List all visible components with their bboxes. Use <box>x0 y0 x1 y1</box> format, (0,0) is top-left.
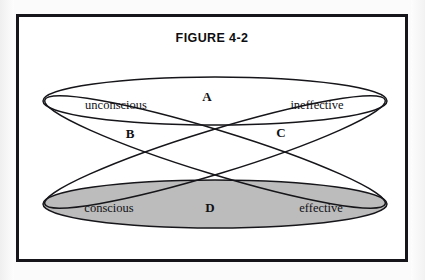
set-label-effective: effective <box>299 201 343 216</box>
set-label-ineffective: ineffective <box>290 98 343 113</box>
region-label-d: D <box>205 200 214 216</box>
figure-frame: FIGURE 4-2 unconscious ineffective consc… <box>16 14 408 262</box>
figure-screenshot: FIGURE 4-2 unconscious ineffective consc… <box>0 0 425 280</box>
scan-edge-right <box>411 0 425 280</box>
region-label-c: C <box>276 125 285 141</box>
set-label-unconscious: unconscious <box>85 98 147 113</box>
venn-diagram <box>19 17 411 265</box>
scan-edge-left <box>0 0 14 280</box>
region-label-a: A <box>202 89 211 105</box>
region-label-b: B <box>126 126 135 142</box>
set-label-conscious: conscious <box>84 201 133 216</box>
